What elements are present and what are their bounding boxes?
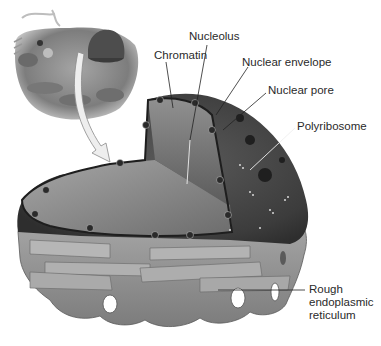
label-rough-er-line3: reticulum: [309, 309, 374, 322]
label-nuclear-pore: Nuclear pore: [268, 84, 334, 97]
nucleus-diagram: Nucleolus Chromatin Nuclear envelope Nuc…: [0, 0, 381, 346]
label-rough-er-line1: Rough: [309, 283, 374, 296]
label-chromatin: Chromatin: [154, 49, 207, 62]
label-nuclear-envelope: Nuclear envelope: [242, 56, 332, 69]
label-rough-er-line2: endoplasmic: [309, 296, 374, 309]
label-polyribosome: Polyribosome: [297, 120, 367, 133]
label-rough-er: Rough endoplasmic reticulum: [309, 283, 374, 322]
label-nucleolus: Nucleolus: [189, 30, 240, 43]
